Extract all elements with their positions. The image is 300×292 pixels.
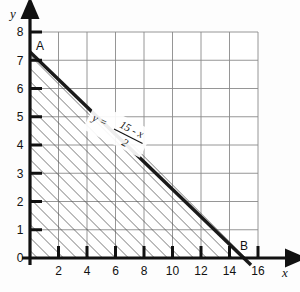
point-b-label: B [240,239,248,253]
x-axis-tick-labels: 2 4 6 8 10 12 14 16 [55,264,265,278]
x-axis-label: x [281,265,288,280]
y-tick-label-2: 2 [17,195,24,209]
y-tick-label-7: 7 [17,54,24,68]
x-tick-label-16: 16 [251,264,265,278]
y-tick-label-6: 6 [17,82,24,96]
graph-figure: 0 1 2 3 4 5 6 7 8 2 4 6 8 10 12 14 16 y … [0,0,300,292]
y-tick-label-1: 1 [17,223,24,237]
y-tick-label-3: 3 [17,167,24,181]
y-tick-label-0: 0 [17,251,24,265]
x-tick-label-2: 2 [55,264,62,278]
y-axis-label: y [8,6,16,21]
y-axis-tick-labels: 0 1 2 3 4 5 6 7 8 [17,25,24,265]
x-tick-label-14: 14 [223,264,237,278]
y-tick-label-5: 5 [17,110,24,124]
x-tick-label-8: 8 [141,264,148,278]
x-tick-label-6: 6 [112,264,119,278]
x-tick-label-12: 12 [194,264,208,278]
point-a-label: A [36,39,44,53]
x-tick-label-10: 10 [166,264,180,278]
coordinate-plane: 0 1 2 3 4 5 6 7 8 2 4 6 8 10 12 14 16 y … [0,0,300,292]
y-tick-label-8: 8 [17,25,24,39]
y-tick-label-4: 4 [17,138,24,152]
x-tick-label-4: 4 [84,264,91,278]
